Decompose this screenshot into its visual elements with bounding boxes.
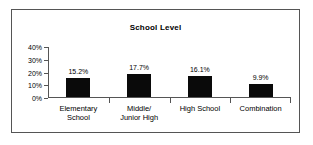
- y-axis-tick: [44, 60, 48, 61]
- y-axis-tick: [44, 85, 48, 86]
- y-axis-tick: [44, 73, 48, 74]
- chart-title: School Level: [12, 23, 299, 32]
- x-axis-separator-tick: [290, 98, 291, 103]
- category-label: High School: [180, 104, 220, 113]
- category-label: Middle/Junior High: [120, 104, 158, 122]
- category-label-line: Junior High: [120, 113, 158, 122]
- category-label: ElementarySchool: [59, 104, 97, 122]
- bar-value-label: 15.2%: [68, 68, 88, 75]
- y-axis-tick-label: 20%: [28, 69, 42, 76]
- y-axis-tick-label: 0%: [32, 95, 42, 102]
- chart-frame: School Level 0%10%20%30%40% 15.2%17.7%16…: [11, 9, 300, 133]
- bar: [249, 84, 273, 97]
- bar-value-label: 9.9%: [253, 74, 269, 81]
- y-axis-tick: [44, 98, 48, 99]
- bar: [66, 78, 90, 97]
- category-label: Combination: [240, 104, 282, 113]
- category-label-line: Combination: [240, 104, 282, 113]
- y-axis-tick: [44, 47, 48, 48]
- x-axis-separator-tick: [230, 98, 231, 103]
- category-label-line: Middle/: [120, 104, 158, 113]
- category-label-line: School: [59, 113, 97, 122]
- y-axis-tick-label: 40%: [28, 44, 42, 51]
- y-axis-tick-label: 10%: [28, 82, 42, 89]
- y-axis-tick-label: 30%: [28, 56, 42, 63]
- bar: [188, 76, 212, 97]
- bar-value-label: 16.1%: [190, 66, 210, 73]
- bar: [127, 74, 151, 97]
- bar-value-label: 17.7%: [129, 64, 149, 71]
- x-axis-separator-tick: [170, 98, 171, 103]
- y-axis-line: [48, 47, 49, 98]
- category-label-line: High School: [180, 104, 220, 113]
- plot-area: 0%10%20%30%40% 15.2%17.7%16.1%9.9% Eleme…: [48, 47, 291, 98]
- x-axis-separator-tick: [109, 98, 110, 103]
- category-label-line: Elementary: [59, 104, 97, 113]
